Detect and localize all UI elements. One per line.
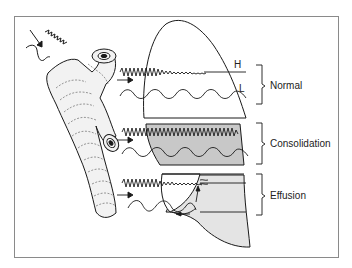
lung-normal-section [144, 20, 246, 118]
region-label-effusion: Effusion [270, 191, 306, 201]
lung-ultrasound-diagram [0, 0, 352, 268]
region-label-normal: Normal [270, 81, 302, 91]
figure-canvas: H L Normal Consolidation Effusion [0, 0, 352, 268]
region-label-consolidation: Consolidation [270, 139, 331, 149]
low-frequency-label: L [239, 84, 245, 94]
region-braces [256, 65, 265, 215]
airway-bronchus-icon [47, 49, 122, 217]
incoming-sound-icon [26, 30, 67, 61]
high-frequency-label: H [234, 60, 241, 70]
